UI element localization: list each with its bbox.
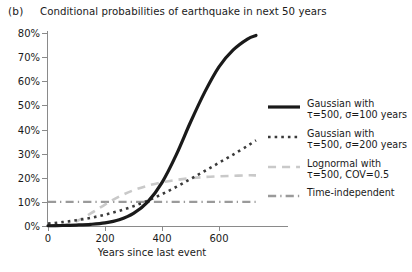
x-axis-title: Years since last event (98, 247, 206, 258)
y-tick-label: 70% (18, 52, 40, 63)
legend-item-lognormal-cov-05[interactable]: Lognormal withτ=500, COV=0.5 (268, 158, 412, 181)
legend-swatch-lognormal-cov-05 (268, 160, 300, 174)
legend-item-gaussian-sigma-100[interactable]: Gaussian withτ=500, σ=100 years (268, 98, 412, 121)
y-tick (42, 178, 47, 179)
x-tick (162, 226, 163, 231)
x-tick-label: 400 (152, 233, 171, 244)
y-tick-label: 80% (18, 28, 40, 39)
series-line-gaussian-sigma-100 (48, 35, 256, 225)
x-tick-label: 600 (209, 233, 228, 244)
legend-label-gaussian-sigma-200: Gaussian withτ=500, σ=200 years (307, 128, 407, 151)
y-tick-label: 40% (18, 124, 40, 135)
series-lines (48, 33, 256, 226)
y-tick-label: 30% (18, 148, 40, 159)
plot-area: 0%10%20%30%40%50%60%70%80% 0200400600 Ye… (48, 33, 256, 226)
y-tick-label: 20% (18, 172, 40, 183)
legend-label-lognormal-cov-05: Lognormal withτ=500, COV=0.5 (307, 158, 389, 181)
series-line-gaussian-sigma-200 (48, 140, 256, 223)
x-tick-label: 0 (45, 233, 51, 244)
y-tick-label: 10% (18, 196, 40, 207)
x-tick (105, 226, 106, 231)
legend: Gaussian withτ=500, σ=100 yearsGaussian … (268, 98, 412, 210)
figure-panel: (b) Conditional probabilities of earthqu… (0, 0, 412, 272)
y-tick (42, 202, 47, 203)
y-tick (42, 57, 47, 58)
y-tick (42, 154, 47, 155)
legend-label-time-independent: Time-independent (307, 187, 395, 198)
y-tick (42, 105, 47, 106)
y-tick (42, 81, 47, 82)
legend-swatch-time-independent (268, 189, 300, 203)
x-tick-label: 200 (95, 233, 114, 244)
y-tick (42, 130, 47, 131)
series-line-lognormal-cov-05 (48, 175, 256, 226)
y-tick (42, 226, 47, 227)
x-tick (219, 226, 220, 231)
chart-title: Conditional probabilities of earthquake … (40, 6, 327, 17)
legend-swatch-gaussian-sigma-200 (268, 130, 300, 144)
legend-item-gaussian-sigma-200[interactable]: Gaussian withτ=500, σ=200 years (268, 128, 412, 151)
y-tick (42, 33, 47, 34)
legend-label-gaussian-sigma-100: Gaussian withτ=500, σ=100 years (307, 98, 407, 121)
y-tick-label: 50% (18, 100, 40, 111)
panel-label: (b) (8, 5, 23, 17)
legend-item-time-independent[interactable]: Time-independent (268, 187, 412, 203)
y-tick-label: 0% (24, 221, 40, 232)
y-tick-label: 60% (18, 76, 40, 87)
legend-swatch-gaussian-sigma-100 (268, 100, 300, 114)
